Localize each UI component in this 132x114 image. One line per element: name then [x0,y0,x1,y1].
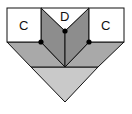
label-c-right: C [101,18,110,33]
quilt-diagram: C D C [0,0,132,114]
dot-right [86,39,91,44]
dot-left [38,39,43,44]
label-d: D [60,9,69,24]
diagram-canvas: C D C [0,0,132,114]
label-c-left: C [19,18,28,33]
bottom-triangle [31,67,98,102]
dot-center [62,28,67,33]
